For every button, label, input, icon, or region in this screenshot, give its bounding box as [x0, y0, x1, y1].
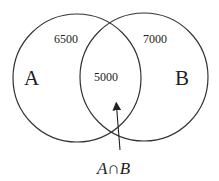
- intersection-value: 5000: [94, 70, 118, 84]
- intersection-label: A∩B: [96, 159, 131, 178]
- set-a-label: A: [24, 66, 40, 90]
- set-b-only-value: 7000: [143, 32, 167, 46]
- set-b-label: B: [175, 66, 189, 90]
- venn-diagram: A B 6500 7000 5000 A∩B: [0, 0, 219, 181]
- set-a-only-value: 6500: [54, 32, 78, 46]
